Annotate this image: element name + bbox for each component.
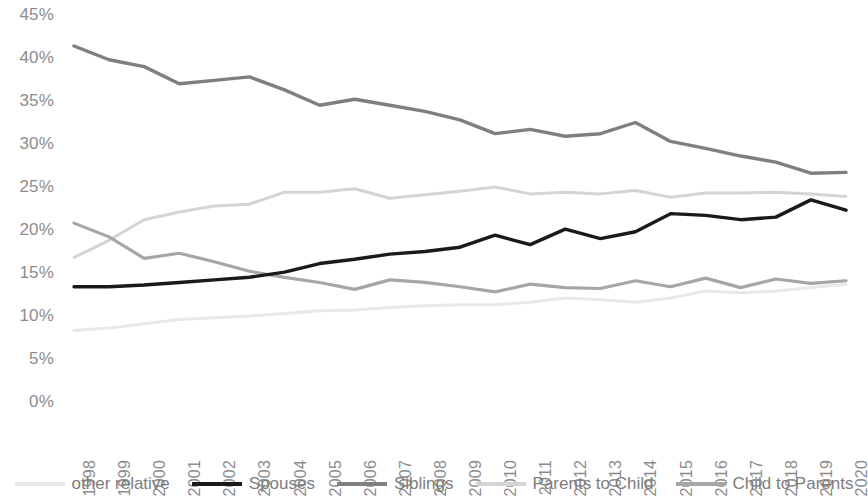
legend-swatch xyxy=(15,482,65,486)
series-line xyxy=(74,284,846,330)
legend-label: Child to Parents xyxy=(733,474,854,494)
legend-label: Parents to Child xyxy=(533,474,654,494)
y-axis-tick: 45% xyxy=(19,5,54,25)
legend-label: Spouses xyxy=(249,474,315,494)
x-axis: 1998199920002001200220032004200520062007… xyxy=(74,404,846,462)
chart-legend: other relativeSpousesSiblingsParents to … xyxy=(0,468,868,499)
y-axis-tick: 20% xyxy=(19,220,54,240)
legend-swatch xyxy=(192,482,242,486)
line-chart: 45%40%35%30%25%20%15%10%5%0% 19981999200… xyxy=(0,0,868,499)
y-axis-tick: 10% xyxy=(19,306,54,326)
y-axis-tick: 40% xyxy=(19,48,54,68)
y-axis-tick: 15% xyxy=(19,263,54,283)
y-axis-tick: 5% xyxy=(29,349,54,369)
y-axis-tick: 35% xyxy=(19,91,54,111)
legend-item[interactable]: Spouses xyxy=(192,474,315,494)
legend-label: Siblings xyxy=(394,474,454,494)
legend-item[interactable]: other relative xyxy=(15,474,170,494)
series-line xyxy=(74,200,846,287)
legend-swatch xyxy=(476,482,526,486)
y-axis-tick: 0% xyxy=(29,392,54,412)
legend-swatch xyxy=(676,482,726,486)
legend-item[interactable]: Siblings xyxy=(337,474,454,494)
y-axis-tick: 25% xyxy=(19,177,54,197)
y-axis-tick: 30% xyxy=(19,134,54,154)
legend-label: other relative xyxy=(72,474,170,494)
legend-item[interactable]: Parents to Child xyxy=(476,474,654,494)
plot-area xyxy=(74,15,846,402)
plot-svg xyxy=(74,15,846,402)
series-line xyxy=(74,46,846,173)
y-axis: 45%40%35%30%25%20%15%10%5%0% xyxy=(0,0,62,410)
legend-item[interactable]: Child to Parents xyxy=(676,474,854,494)
legend-swatch xyxy=(337,482,387,486)
